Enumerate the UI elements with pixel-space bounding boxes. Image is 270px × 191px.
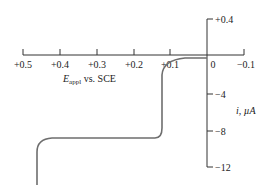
x-tick-label: +0.2 bbox=[125, 59, 143, 70]
x-tick-label: +0.5 bbox=[14, 59, 32, 70]
x-axis-ticks bbox=[23, 49, 244, 55]
x-tick-labels: +0.5 +0.4 +0.3 +0.2 +0.1 0 −0.1 bbox=[14, 59, 255, 70]
y-axis-ticks bbox=[207, 19, 213, 167]
y-tick-label: −4 bbox=[215, 89, 226, 100]
x-tick-label: +0.3 bbox=[88, 59, 106, 70]
x-tick-label: +0.4 bbox=[51, 59, 69, 70]
y-axis-title: i, µA bbox=[236, 105, 257, 116]
y-tick-label: +0.4 bbox=[215, 14, 233, 25]
y-tick-labels: +0.4 −4 −8 −12 bbox=[215, 14, 233, 173]
x-axis-title: Eappl vs. SCE bbox=[62, 73, 116, 86]
x-tick-label: 0 bbox=[211, 59, 216, 70]
chart-canvas: +0.5 +0.4 +0.3 +0.2 +0.1 0 −0.1 Eappl vs… bbox=[0, 0, 270, 191]
x-tick-label: −0.1 bbox=[237, 59, 255, 70]
y-tick-label: −12 bbox=[215, 162, 231, 173]
y-tick-label: −8 bbox=[215, 126, 226, 137]
